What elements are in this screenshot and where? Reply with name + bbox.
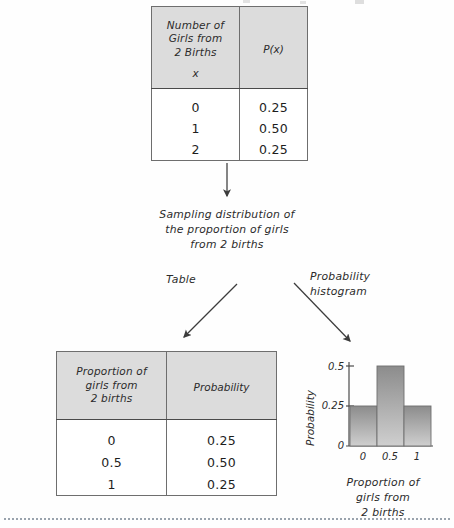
page-divider-rule [4, 518, 450, 520]
header-label-probability: Probability [167, 377, 276, 394]
spacer-cell-left [152, 89, 240, 98]
value-px: 0.25 [259, 142, 288, 157]
cell-px: 0.50 [240, 118, 308, 139]
table-spacer-row [152, 89, 308, 98]
cell-proportion: 0 [57, 429, 167, 451]
probability-distribution-table: Number ofGirls from2 Births x P(x) 0 0.2… [151, 6, 308, 161]
probability-histogram: Probability 0.5 0.25 0 0 0.5 1 [300, 356, 450, 472]
table-header-row: Number ofGirls from2 Births x P(x) [152, 7, 308, 89]
table-row: 2 0.25 [152, 139, 308, 161]
sampling-distribution-table: Proportion ofgirls from2 births Probabil… [56, 351, 277, 496]
table-row: 1 0.25 [57, 473, 277, 496]
value-x: 2 [191, 142, 199, 157]
cell-px: 0.25 [240, 139, 308, 161]
histogram-bar-0 [350, 406, 377, 446]
spacer-cell-right [167, 420, 277, 430]
histogram-bar-0.5 [377, 366, 404, 446]
header-cell-x: Number ofGirls from2 Births x [152, 7, 240, 89]
cell-x: 1 [152, 118, 240, 139]
arrow-to-table [184, 284, 237, 337]
cell-proportion: 1 [57, 473, 167, 496]
cell-probability: 0.50 [167, 451, 277, 473]
table-row: 0 0.25 [57, 429, 277, 451]
histogram-ytick-0: 0 [338, 440, 344, 451]
histogram-ytick-0.5: 0.5 [328, 361, 344, 372]
table-header-row: Proportion ofgirls from2 births Probabil… [57, 352, 277, 420]
header-label-number-of-girls: Number ofGirls from2 Births [152, 15, 239, 64]
histogram-bar-1 [404, 406, 431, 446]
value-x: 1 [191, 121, 199, 136]
histogram-x-axis-caption: Proportion ofgirls from2 births [320, 475, 446, 520]
sampling-distribution-caption: Sampling distribution ofthe proportion o… [127, 207, 327, 252]
value-proportion: 1 [107, 477, 115, 492]
value-proportion: 0 [107, 433, 115, 448]
cell-probability: 0.25 [167, 473, 277, 496]
table-spacer-row [57, 420, 277, 430]
figure-canvas: Number ofGirls from2 Births x P(x) 0 0.2… [0, 0, 454, 528]
histogram-xtick-0.5: 0.5 [382, 451, 398, 462]
branch-label-probability-histogram: Probabilityhistogram [310, 269, 420, 299]
header-cell-px: P(x) [240, 7, 308, 89]
value-probability: 0.50 [207, 455, 236, 470]
cell-x: 0 [152, 97, 240, 118]
header-label-px: P(x) [240, 39, 307, 56]
cell-probability: 0.25 [167, 429, 277, 451]
histogram-svg: Probability 0.5 0.25 0 0 0.5 1 [300, 356, 450, 472]
table-row: 0 0.25 [152, 97, 308, 118]
histogram-y-axis-label: Probability [304, 389, 316, 446]
value-px: 0.50 [259, 121, 288, 136]
branch-label-table: Table [151, 272, 211, 287]
table-row: 1 0.50 [152, 118, 308, 139]
value-x: 0 [191, 100, 199, 115]
value-probability: 0.25 [207, 433, 236, 448]
header-symbol-x: x [152, 63, 239, 80]
value-px: 0.25 [259, 100, 288, 115]
header-cell-probability: Probability [167, 352, 277, 420]
header-label-proportion: Proportion ofgirls from2 births [57, 361, 166, 410]
table-row: 0.5 0.50 [57, 451, 277, 473]
header-cell-proportion: Proportion ofgirls from2 births [57, 352, 167, 420]
spacer-cell-right [240, 89, 308, 98]
spacer-cell-left [57, 420, 167, 430]
value-proportion: 0.5 [101, 455, 122, 470]
histogram-xtick-1: 1 [414, 451, 420, 462]
cell-x: 2 [152, 139, 240, 161]
histogram-ytick-0.25: 0.25 [322, 400, 344, 411]
cell-px: 0.25 [240, 97, 308, 118]
cell-proportion: 0.5 [57, 451, 167, 473]
value-probability: 0.25 [207, 477, 236, 492]
histogram-xtick-0: 0 [360, 451, 366, 462]
